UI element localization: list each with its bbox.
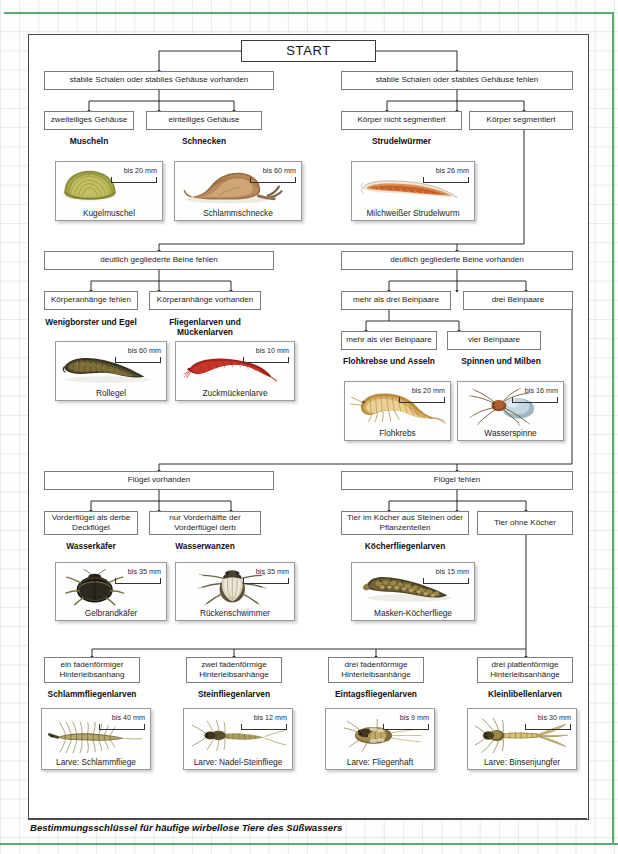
criterion-box-two-filaments[interactable]: zwei fadenförmige Hinterleibsanhänge — [186, 657, 282, 683]
criterion-box-three-leg-pairs[interactable]: drei Beinpaare — [463, 291, 573, 310]
start-label: START — [286, 43, 330, 60]
scale-label: bis 20 mm — [412, 386, 445, 395]
scale-bar — [250, 177, 296, 183]
criterion-label: Tier im Köcher aus Steinen oder Pflanzen… — [345, 513, 465, 533]
scale-bar — [99, 724, 145, 730]
group-name-wenigborster-egel: Wenigborster und Egel — [44, 317, 138, 327]
specimen-card-larve-nadel-steinfliege[interactable]: bis 12 mm Larve: Nadel-Steinfliege — [183, 708, 293, 770]
criterion-label: deutlich gegliederte Beine fehlen — [100, 255, 217, 265]
scale-bar — [512, 397, 558, 403]
criterion-label: Körperanhänge vorhanden — [157, 295, 253, 305]
group-name-kleinlibellenlarven: Kleinlibellenlarven — [470, 689, 580, 699]
group-name-wasserwanzen: Wasserwanzen — [149, 541, 261, 551]
criterion-box-legs-absent[interactable]: deutlich gegliederte Beine fehlen — [44, 251, 274, 270]
criterion-box-one-part-shell[interactable]: einteiliges Gehäuse — [146, 111, 262, 130]
criterion-label: drei plattenförmige Hinterleibsanhänge — [481, 660, 569, 680]
specimen-card-larve-schlammfliege[interactable]: bis 40 mm Larve: Schlammfliege — [41, 708, 151, 770]
criterion-label: stabile Schalen oder stabiles Gehäuse vo… — [70, 75, 249, 85]
scale-bar — [241, 724, 287, 730]
scale-label: bis 35 mm — [256, 567, 289, 576]
specimen-card-flohkrebs[interactable]: bis 20 mm Flohkrebs — [344, 381, 451, 441]
criterion-box-legs-present[interactable]: deutlich gegliederte Beine vorhanden — [341, 251, 573, 270]
group-name-spinnen-milben: Spinnen und Milben — [447, 356, 555, 366]
criterion-box-hemelytra[interactable]: nur Vorderhälfte der Vorderflügel derb — [149, 511, 261, 535]
group-name-koecherfliegenlarven: Köcherfliegenlarven — [341, 541, 469, 551]
specimen-card-kugelmuschel[interactable]: bis 20 mm Kugelmuschel — [55, 161, 163, 221]
specimen-card-milchweisser-strudelwurm[interactable]: bis 26 mm Milchweißer Strudelwurm — [351, 161, 475, 221]
scale-label: bis 12 mm — [254, 713, 287, 722]
criterion-box-wings-absent[interactable]: Flügel fehlen — [341, 471, 573, 490]
specimen-card-zuckmueckenlarve[interactable]: bis 10 mm Zuckmückenlarve — [175, 341, 295, 401]
specimen-card-rueckenschwimmer[interactable]: bis 35 mm Rückenschwimmer — [175, 562, 295, 621]
scale-bar — [243, 578, 289, 584]
start-box[interactable]: START — [241, 40, 376, 62]
scale-label: bis 60 mm — [128, 346, 161, 355]
figure-caption: Bestimmungsschlüssel für häufige wirbell… — [30, 822, 586, 833]
scale-label: bis 10 mm — [256, 346, 289, 355]
specimen-card-masken-koecherfliege[interactable]: bis 15 mm Masken-Köcherfliege — [351, 562, 475, 621]
specimen-card-schlammschnecke[interactable]: bis 60 mm Schlammschnecke — [174, 161, 302, 221]
criterion-label: Körper nicht segmentiert — [357, 115, 445, 125]
criterion-box-more-than-three-leg-pairs[interactable]: mehr als drei Beinpaare — [341, 291, 451, 310]
criterion-box-appendages-absent[interactable]: Körperanhänge fehlen — [44, 291, 138, 310]
criterion-label: drei Beinpaare — [492, 295, 545, 305]
criterion-label: stabile Schalen oder stabiles Gehäuse fe… — [376, 75, 538, 85]
criterion-box-elytra[interactable]: Vorderflügel als derbe Deckflügel — [44, 511, 138, 535]
scale-bar — [111, 177, 157, 183]
criterion-box-body-segmented[interactable]: Körper segmentiert — [469, 111, 573, 130]
scale-bar — [383, 724, 429, 730]
caption-divider — [28, 818, 587, 819]
group-name-steinfliegenlarven: Steinfliegenlarven — [179, 689, 289, 699]
criterion-box-body-unsegmented[interactable]: Körper nicht segmentiert — [341, 111, 462, 130]
specimen-caption: Larve: Binsenjungfer — [468, 757, 576, 767]
specimen-caption: Schlammschnecke — [175, 208, 301, 218]
specimen-caption: Flohkrebs — [345, 428, 450, 438]
criterion-box-more-than-four-leg-pairs[interactable]: mehr als vier Beinpaare — [341, 331, 437, 350]
specimen-card-larve-binsenjungfer[interactable]: bis 30 mm Larve: Binsenjungfer — [467, 708, 577, 770]
criterion-label: mehr als drei Beinpaare — [353, 295, 439, 305]
criterion-box-three-filaments[interactable]: drei fadenförmige Hinterleibsanhänge — [328, 657, 424, 683]
scale-bar — [399, 397, 445, 403]
criterion-box-with-case[interactable]: Tier im Köcher aus Steinen oder Pflanzen… — [341, 511, 469, 535]
scale-bar — [115, 357, 161, 363]
criterion-label: Vorderflügel als derbe Deckflügel — [48, 513, 134, 533]
specimen-card-gelbrandkaefer[interactable]: bis 35 mm Gelbrandkäfer — [55, 562, 167, 621]
specimen-caption: Gelbrandkäfer — [56, 608, 166, 618]
specimen-caption: Larve: Fliegenhaft — [326, 757, 434, 767]
specimen-caption: Zuckmückenlarve — [176, 388, 294, 398]
specimen-caption: Masken-Köcherfliege — [352, 608, 474, 618]
specimen-card-larve-fliegenhaft[interactable]: bis 9 mm Larve: Fliegenhaft — [325, 708, 435, 770]
criterion-box-four-leg-pairs[interactable]: vier Beinpaare — [447, 331, 541, 350]
criterion-box-one-filament[interactable]: ein fadenförmiger Hinterleibsanhang — [44, 657, 140, 683]
criterion-box-two-part-shell[interactable]: zweiteiliges Gehäuse — [44, 111, 134, 130]
scale-label: bis 9 mm — [400, 713, 429, 722]
green-bottom-rule — [0, 843, 618, 845]
specimen-card-wasserspinne[interactable]: bis 16 mm Wasserspinne — [457, 381, 564, 441]
specimen-caption: Wasserspinne — [458, 428, 563, 438]
scale-label: bis 15 mm — [436, 567, 469, 576]
criterion-box-shell-absent[interactable]: stabile Schalen oder stabiles Gehäuse fe… — [341, 71, 573, 90]
criterion-label: Körper segmentiert — [487, 115, 556, 125]
group-name-strudelwuermer: Strudelwürmer — [341, 136, 462, 146]
criterion-box-shell-present[interactable]: stabile Schalen oder stabiles Gehäuse vo… — [44, 71, 274, 90]
criterion-label: einteiliges Gehäuse — [168, 115, 239, 125]
scale-bar — [423, 177, 469, 183]
group-name-wasserkaefer: Wasserkäfer — [44, 541, 138, 551]
criterion-box-appendages-present[interactable]: Körperanhänge vorhanden — [149, 291, 261, 310]
scale-bar — [423, 578, 469, 584]
scale-bar — [525, 724, 571, 730]
scale-label: bis 16 mm — [525, 386, 558, 395]
group-name-schlammfliegenlarven: Schlammfliegenlarven — [37, 689, 147, 699]
specimen-caption: Kugelmuschel — [56, 208, 162, 218]
key-panel: START stabile Schalen oder stabiles Gehä… — [28, 34, 589, 820]
specimen-caption: Milchweißer Strudelwurm — [352, 208, 474, 218]
scale-label: bis 35 mm — [128, 567, 161, 576]
specimen-caption: Rollegel — [56, 388, 166, 398]
criterion-label: Flügel vorhanden — [128, 475, 191, 485]
group-name-muscheln: Muscheln — [44, 136, 134, 146]
criterion-box-three-plates[interactable]: drei plattenförmige Hinterleibsanhänge — [477, 657, 573, 683]
criterion-box-without-case[interactable]: Tier ohne Köcher — [477, 511, 573, 535]
criterion-box-wings-present[interactable]: Flügel vorhanden — [44, 471, 274, 490]
specimen-card-rollegel[interactable]: bis 60 mm Rollegel — [55, 341, 167, 401]
scale-bar — [243, 357, 289, 363]
